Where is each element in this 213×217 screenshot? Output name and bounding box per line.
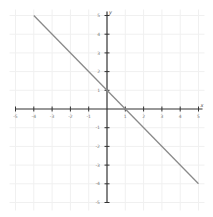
y-tick-label: 5 bbox=[97, 13, 100, 18]
x-tick-label: 4 bbox=[179, 114, 182, 119]
y-tick-label: 4 bbox=[97, 32, 100, 37]
x-tick-label: 2 bbox=[142, 114, 145, 119]
x-axis-label: x bbox=[200, 102, 204, 108]
y-tick-label: 2 bbox=[97, 69, 100, 74]
x-tick-label: -2 bbox=[68, 114, 73, 119]
y-tick-label: -4 bbox=[96, 181, 101, 186]
axes: x y bbox=[16, 9, 204, 203]
x-tick-label: 1 bbox=[124, 114, 127, 119]
x-tick-label: -3 bbox=[50, 114, 55, 119]
x-tick-label: 3 bbox=[160, 114, 163, 119]
y-tick-label: -5 bbox=[96, 200, 101, 205]
x-tick-label: -1 bbox=[86, 114, 91, 119]
y-tick-label: 1 bbox=[97, 88, 100, 93]
x-tick-label: -5 bbox=[13, 114, 18, 119]
y-tick-label: -2 bbox=[96, 144, 101, 149]
x-tick-label: 5 bbox=[197, 114, 200, 119]
coordinate-plane: x y -5-4-3-2-112345 54321-1-2-3-4-5 bbox=[0, 0, 213, 217]
y-tick-label: -3 bbox=[96, 163, 101, 168]
y-tick-label: -1 bbox=[96, 125, 101, 130]
x-tick-label: -4 bbox=[32, 114, 37, 119]
data-series bbox=[34, 16, 199, 184]
line-series bbox=[34, 16, 199, 184]
y-tick-label: 3 bbox=[97, 51, 100, 56]
y-axis-label: y bbox=[108, 9, 113, 16]
